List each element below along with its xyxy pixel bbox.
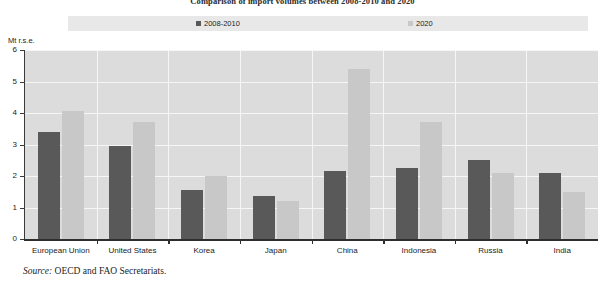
x-axis-tick [97, 240, 99, 244]
y-axis-tick [20, 82, 25, 83]
x-axis-category-label: European Union [25, 246, 97, 255]
chart-title: Comparison of import volumes between 200… [0, 0, 605, 6]
bar [348, 69, 370, 239]
bar [62, 111, 84, 239]
plot-area [25, 50, 598, 239]
category-separator [312, 50, 313, 239]
x-axis-category-label: United States [97, 246, 169, 255]
legend-swatch-icon [408, 21, 413, 26]
bar [396, 168, 418, 239]
source-text: OECD and FAO Secretariats. [55, 266, 167, 276]
y-axis-tick [20, 145, 25, 146]
x-axis-category-label: Indonesia [383, 246, 455, 255]
y-axis-tick-label: 1 [0, 203, 17, 212]
bar [492, 173, 514, 239]
x-axis-tick [312, 240, 314, 244]
bar [324, 171, 346, 239]
bar [539, 173, 561, 239]
x-axis-category-label: China [312, 246, 384, 255]
bar [277, 201, 299, 239]
category-separator [240, 50, 241, 239]
y-axis-tick-label: 3 [0, 140, 17, 149]
x-axis-category-label: India [526, 246, 598, 255]
legend-swatch-icon [196, 21, 201, 26]
x-axis-category-label: Japan [240, 246, 312, 255]
y-axis-tick [20, 50, 25, 51]
bar [109, 146, 131, 239]
source-label: Source: [23, 266, 52, 276]
bar [253, 196, 275, 239]
y-axis-tick [20, 113, 25, 114]
x-axis-tick [526, 240, 528, 244]
legend-item-2020: 2020 [408, 19, 433, 28]
x-axis-tick [240, 240, 242, 244]
category-separator [168, 50, 169, 239]
bar [133, 122, 155, 239]
chart-legend: 2008-2010 2020 [68, 16, 588, 31]
y-axis-tick [20, 176, 25, 177]
x-axis-tick [168, 240, 170, 244]
legend-item-2008-2010: 2008-2010 [196, 19, 240, 28]
bar [468, 160, 490, 239]
category-separator [526, 50, 527, 239]
bar [205, 176, 227, 239]
plot-area-wrapper [25, 50, 598, 239]
bar [181, 190, 203, 239]
x-axis-tick [455, 240, 457, 244]
x-axis-tick [383, 240, 385, 244]
x-axis-category-label: Korea [168, 246, 240, 255]
legend-label: 2020 [416, 19, 433, 28]
category-separator [383, 50, 384, 239]
y-axis-tick-label: 6 [0, 45, 17, 54]
legend-label: 2008-2010 [204, 19, 240, 28]
bar [563, 192, 585, 239]
y-axis-tick-label: 0 [0, 234, 17, 243]
source-note: Source: OECD and FAO Secretariats. [23, 266, 166, 276]
category-separator [455, 50, 456, 239]
y-axis-tick [20, 208, 25, 209]
bar [420, 122, 442, 239]
category-separator [97, 50, 98, 239]
y-axis-title: Mt r.s.e. [8, 36, 35, 45]
x-axis-category-label: Russia [455, 246, 527, 255]
y-axis-tick-label: 5 [0, 77, 17, 86]
y-axis-tick-label: 2 [0, 171, 17, 180]
y-axis-tick-label: 4 [0, 108, 17, 117]
bar [38, 132, 60, 239]
